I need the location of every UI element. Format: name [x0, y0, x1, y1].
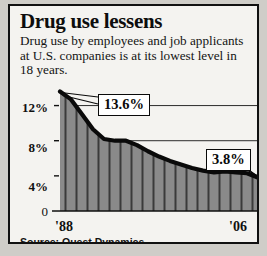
callout-start-value: 13.6%	[98, 94, 150, 116]
chart-figure: Drug use lessens Drug use by employees a…	[8, 4, 259, 244]
y-axis-zero-label: 0	[12, 204, 48, 220]
source-note: Source: Quest Dynamics	[20, 236, 144, 244]
y-axis-tick-12: 12%	[12, 100, 48, 116]
y-axis-tick-4: 4%	[12, 179, 48, 195]
x-axis-label-end: '06	[229, 219, 247, 235]
chart-subtitle: Drug use by employees and job applicants…	[20, 34, 250, 78]
x-axis-label-start: '88	[55, 219, 73, 235]
y-axis-tick-8: 8%	[12, 140, 48, 156]
callout-end-value: 3.8%	[206, 149, 251, 171]
page-title: Drug use lessens	[20, 10, 252, 33]
